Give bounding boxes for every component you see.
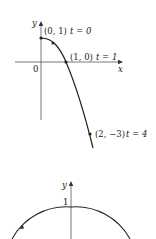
origin-label: 0 — [33, 64, 38, 74]
top-graph: y x 0 (0, 1) t = 0 (1, 0) t = 1 (2, −3) … — [15, 18, 147, 148]
t-label-t0: t = 0 — [70, 26, 92, 36]
y-axis-label: y — [31, 18, 37, 28]
x-axis-label: x — [118, 64, 123, 74]
point-label-t4: (2, −3) — [95, 129, 125, 139]
y-axis-label: y — [61, 180, 67, 190]
tick-label-1: 1 — [63, 197, 68, 207]
parametric-diagrams: y x 0 (0, 1) t = 0 (1, 0) t = 1 (2, −3) … — [0, 0, 156, 239]
bottom-graph: y 1 — [12, 180, 130, 239]
point-t0 — [39, 36, 42, 39]
t-label-t1: t = 1 — [96, 52, 117, 62]
point-t1 — [64, 60, 67, 63]
point-t4 — [88, 132, 91, 135]
point-label-t0: (0, 1) — [44, 26, 67, 36]
t-label-t4: t = 4 — [126, 129, 147, 139]
point-label-t1: (1, 0) — [70, 52, 93, 62]
